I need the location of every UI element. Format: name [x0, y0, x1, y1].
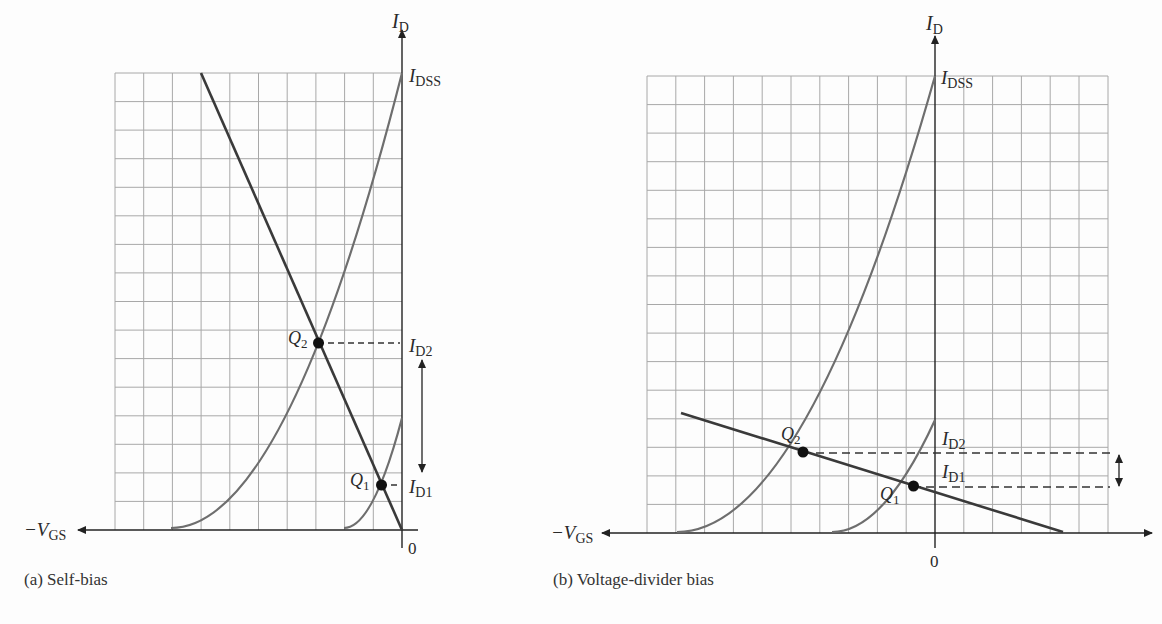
panel-a-transfer-curve-large [171, 73, 402, 528]
panel-b-id2-label: ID2 [941, 428, 965, 452]
panel-a-q2-point [313, 338, 324, 349]
panel-b-id1-label: ID1 [941, 461, 965, 485]
panel-b-grid [647, 76, 1108, 533]
panel-a-caption: (a) Self-bias [24, 570, 108, 590]
panel-a-q1-point [376, 480, 387, 491]
panel-b-q2-label: Q2 [781, 424, 801, 447]
panel-b-voltage-divider-bias: ID IDSS ID2 ID1 Q2 Q1 −VGS 0 [551, 12, 1152, 571]
panel-b-caption: (b) Voltage-divider bias [553, 570, 714, 590]
panel-b-x-axis-label: −VGS [551, 522, 593, 546]
panel-b-origin-label: 0 [930, 552, 939, 571]
panel-a-origin-label: 0 [408, 539, 417, 558]
panel-a-y-axis-label: ID [391, 10, 409, 35]
panel-b-idss-label: IDSS [940, 67, 973, 91]
panel-b-y-axis-label: ID [925, 12, 943, 37]
panel-a-id1-label: ID1 [408, 476, 432, 500]
panel-a-x-axis-label: −VGS [24, 519, 66, 543]
panel-b-q1-point [908, 481, 919, 492]
jfet-bias-diagram: ID IDSS ID2 ID1 Q2 Q1 −VGS 0 [0, 0, 1162, 624]
panel-a-idss-label: IDSS [408, 65, 441, 89]
panel-a-id2-label: ID2 [408, 335, 432, 359]
panel-b-q2-point [798, 447, 809, 458]
panel-a-q2-label: Q2 [288, 328, 308, 351]
panel-a-self-bias: ID IDSS ID2 ID1 Q2 Q1 −VGS 0 [24, 10, 441, 558]
panel-a-q1-label: Q1 [350, 470, 370, 493]
